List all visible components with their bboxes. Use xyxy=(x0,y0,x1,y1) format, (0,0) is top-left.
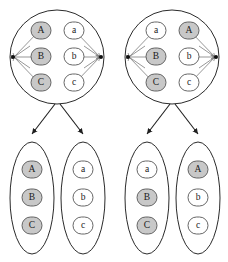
right-top-right-hub-dot xyxy=(214,55,218,59)
node-label: B xyxy=(153,51,159,61)
left-child1-node-B: B xyxy=(22,189,42,206)
right-top-node-A: A xyxy=(179,22,199,39)
left-child2-node-c: c xyxy=(73,217,93,234)
node-label: c xyxy=(196,220,200,230)
left-top-node-B: B xyxy=(31,48,51,65)
right-top-node-B: B xyxy=(146,48,166,65)
right-top-node-a: a xyxy=(146,22,166,39)
right-child1-node-a: a xyxy=(137,161,157,178)
right-top-node-b: b xyxy=(179,48,199,65)
node-label: B xyxy=(29,192,35,202)
node-label: C xyxy=(29,220,35,230)
node-label: b xyxy=(187,51,192,61)
right-tree-edge-2 xyxy=(175,104,198,134)
node-label: A xyxy=(38,25,45,35)
right-group: a B C A b c xyxy=(125,10,220,254)
node-label: B xyxy=(144,192,150,202)
left-tree-edge-2 xyxy=(60,104,83,134)
node-label: C xyxy=(38,77,44,87)
right-top-node-c: c xyxy=(179,74,199,91)
diagram-root: A B C a b c xyxy=(0,0,228,262)
left-top-node-C: C xyxy=(31,74,51,91)
node-label: b xyxy=(196,192,201,202)
left-child1-node-C: C xyxy=(22,217,42,234)
partition-refinement-diagram: A B C a b c xyxy=(0,0,228,262)
left-child1-node-A: A xyxy=(22,161,42,178)
node-label: C xyxy=(153,77,159,87)
right-child2-node-A: A xyxy=(188,161,208,178)
node-label: c xyxy=(72,77,76,87)
left-top-node-b: b xyxy=(64,48,84,65)
node-label: b xyxy=(72,51,77,61)
left-top-node-c: c xyxy=(64,74,84,91)
right-tree-edge-1 xyxy=(147,104,170,134)
node-label: B xyxy=(38,51,44,61)
node-label: A xyxy=(186,25,193,35)
right-child1-node-C: C xyxy=(137,217,157,234)
node-label: c xyxy=(81,220,85,230)
right-child2-node-c: c xyxy=(188,217,208,234)
right-top-node-C: C xyxy=(146,74,166,91)
left-child2-node-b: b xyxy=(73,189,93,206)
left-top-node-A: A xyxy=(31,22,51,39)
right-top-left-hub-dot xyxy=(126,55,130,59)
right-child2-node-b: b xyxy=(188,189,208,206)
node-label: c xyxy=(187,77,191,87)
node-label: C xyxy=(144,220,150,230)
left-tree-edge-1 xyxy=(32,104,55,134)
node-label: A xyxy=(29,164,36,174)
node-label: A xyxy=(195,164,202,174)
right-child1-node-B: B xyxy=(137,189,157,206)
left-child2-node-a: a xyxy=(73,161,93,178)
left-top-node-a: a xyxy=(64,22,84,39)
left-top-left-hub-dot xyxy=(11,55,15,59)
node-label: b xyxy=(81,192,86,202)
left-group: A B C a b c xyxy=(10,10,105,254)
left-top-right-hub-dot xyxy=(99,55,103,59)
